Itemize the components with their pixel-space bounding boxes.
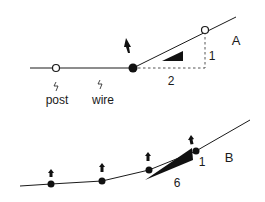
figure-a: post wire 2 1 A — [30, 17, 241, 107]
rise-label: 1 — [199, 155, 206, 169]
wire-pointer-squiggle-icon — [98, 80, 102, 89]
curved-wire-line — [20, 120, 250, 186]
wire-label: wire — [91, 93, 114, 107]
up-arrow-icon — [188, 135, 194, 145]
wire-point-dot — [146, 167, 153, 174]
wire-point-dot — [193, 148, 200, 155]
post-pointer-squiggle-icon — [54, 82, 58, 91]
run-label: 6 — [174, 176, 181, 190]
figure-b: 1 6 B — [20, 120, 250, 190]
lifted-point-dot — [129, 64, 138, 73]
force-arrow-icon — [124, 38, 131, 53]
figure-a-label: A — [232, 33, 241, 48]
figure-b-label: B — [225, 150, 234, 165]
slope-wedge-icon — [145, 148, 193, 180]
raised-wire-line — [133, 17, 236, 68]
wire-point-dot — [99, 178, 106, 185]
wire-slope-diagram: post wire 2 1 A 1 6 B — [0, 0, 265, 202]
rise-label: 1 — [209, 49, 216, 63]
up-arrow-icon — [48, 169, 54, 177]
up-arrow-icon — [145, 152, 151, 161]
post-label: post — [46, 93, 69, 107]
wire-point-dot — [48, 181, 55, 188]
force-arrows — [48, 135, 194, 177]
upper-post-circle-icon — [202, 27, 209, 34]
up-arrow-icon — [99, 163, 105, 172]
run-label: 2 — [168, 74, 175, 88]
post-circle-icon — [53, 65, 60, 72]
